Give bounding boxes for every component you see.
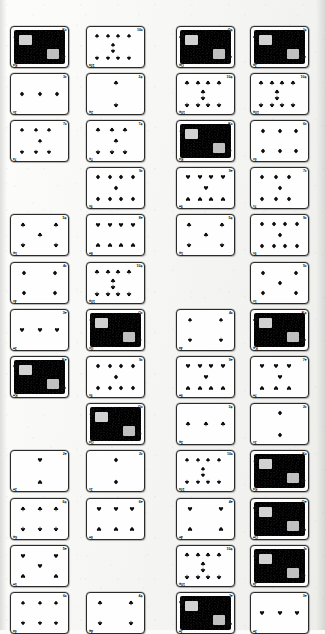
court-corner-pip [253,506,259,512]
playing-card[interactable]: 6♠6♠ [10,592,69,634]
card-pip [123,128,128,133]
card-index-top-right: 10♠ [137,29,142,33]
card-pip [206,553,211,558]
card-pip [19,92,24,97]
playing-card[interactable]: 4♦4♦ [10,262,69,304]
pip-field [255,173,304,203]
card-pip [217,553,222,558]
playing-card[interactable]: J♣J♣ [250,26,309,68]
card-index-top-right: Q♣ [228,29,233,33]
playing-card[interactable]: 7♦7♦ [250,167,309,209]
card-pip [109,128,114,133]
playing-card[interactable]: 5♣5♣ [10,214,69,256]
card-pip [294,290,299,295]
pip-field [15,126,64,156]
card-pip [116,270,121,275]
card-index-bottom-left: Q♣ [179,62,184,66]
playing-card[interactable]: 8♥8♥ [86,214,145,256]
card-index-top-right: J♥ [229,595,233,599]
playing-card[interactable]: K♠K♠ [10,26,69,68]
card-index-top-right: K♥ [62,359,66,363]
card-index-top-right: 3♥ [303,595,307,599]
card-pip [116,34,121,39]
playing-card[interactable]: 3♥3♥ [250,592,309,634]
playing-card[interactable]: 9♦9♦ [250,214,309,256]
playing-card[interactable]: 2♣2♣ [86,73,145,115]
pip-field [181,315,230,345]
card-cell: 4♠4♠ [176,309,233,349]
playing-card[interactable]: 10♣10♣ [250,73,309,115]
playing-card[interactable]: 7♣7♣ [86,120,145,162]
card-index-bottom-left: 9♦ [89,203,93,207]
court-corner-pip [300,54,306,60]
playing-card[interactable]: 7♠7♠ [10,120,69,162]
playing-card[interactable]: Q♦Q♦ [86,309,145,351]
playing-card[interactable]: K♥K♥ [10,356,69,398]
playing-card[interactable]: 2♦2♦ [86,450,145,492]
card-pip [221,175,226,180]
card-pip [119,243,124,248]
playing-card[interactable]: K♣K♣ [250,309,309,351]
playing-card[interactable]: 3♥3♥ [10,309,69,351]
playing-card[interactable]: 2♦2♦ [250,403,309,445]
card-index-bottom-left: K♠ [13,62,17,66]
playing-card[interactable]: K♠K♠ [176,120,235,162]
card-pip [37,621,42,626]
playing-card[interactable]: 9♥9♥ [176,356,235,398]
pip-field [181,409,230,439]
card-pip [130,527,135,532]
card-pip [209,175,214,180]
card-pip [95,243,100,248]
card-pip [206,479,211,484]
playing-card[interactable]: 3♦3♦ [10,73,69,115]
playing-card[interactable]: K♠K♠ [250,450,309,492]
card-index-top-right: 7♥ [303,359,307,363]
card-pip [55,92,60,97]
playing-card[interactable]: Q♥Q♥ [250,498,309,540]
playing-card[interactable]: 4♥4♥ [176,498,235,540]
card-pip [259,222,264,227]
playing-card[interactable]: 5♣5♣ [176,214,235,256]
playing-card[interactable]: J♠J♠ [250,545,309,587]
playing-card[interactable]: 9♦9♦ [86,356,145,398]
playing-card[interactable]: 2♥2♥ [10,450,69,492]
playing-card[interactable]: 10♣10♣ [176,73,235,115]
playing-card[interactable]: 6♥6♥ [86,498,145,540]
playing-card[interactable]: 10♠10♠ [176,450,235,492]
playing-card[interactable]: 4♣4♣ [86,592,145,634]
court-corner-pip [179,34,185,40]
card-pip [131,222,136,227]
playing-card[interactable]: 10♠10♠ [86,26,145,68]
playing-card[interactable]: 7♥7♥ [250,356,309,398]
playing-card[interactable]: 6♦6♦ [250,120,309,162]
card-pip [271,243,276,248]
playing-card[interactable]: 3♣3♣ [176,403,235,445]
card-pip [54,554,59,559]
card-pip [21,271,26,276]
card-pip [37,233,42,238]
playing-card[interactable]: Q♣Q♣ [176,26,235,68]
card-index-bottom-left: Q♦ [89,345,93,349]
playing-card[interactable]: 10♣10♣ [176,545,235,587]
card-pip [221,385,226,390]
playing-card[interactable]: J♥J♥ [176,592,235,634]
playing-card[interactable]: 10♣10♣ [86,262,145,304]
playing-card[interactable]: 9♦9♦ [86,167,145,209]
playing-card[interactable]: 5♦5♦ [250,262,309,304]
playing-card[interactable]: 5♥5♥ [10,545,69,587]
card-pip [37,506,42,511]
playing-card[interactable]: 4♠4♠ [176,309,235,351]
court-card-artwork [90,407,141,441]
playing-card[interactable]: 6♣6♣ [10,498,69,540]
playing-card[interactable]: Q♠Q♠ [86,403,145,445]
playing-card[interactable]: 9♥9♥ [176,167,235,209]
card-pip [94,291,99,296]
card-pip [95,149,100,154]
pip-field [255,362,304,392]
pip-field [91,32,140,62]
card-pip [96,506,101,511]
card-pip [127,55,132,60]
card-pip [187,507,192,512]
card-pip [220,242,225,247]
card-pip [33,128,38,133]
